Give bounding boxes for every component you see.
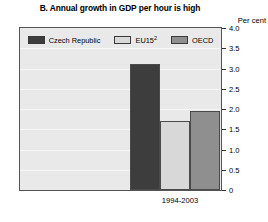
y-axis-tick (222, 170, 226, 171)
y-axis-tick (222, 48, 226, 49)
y-axis-tick-label: 4.0 (229, 24, 240, 33)
y-axis-tick-label: 1.0 (229, 145, 240, 154)
x-axis-label: 1994-2003 (130, 196, 230, 205)
bar-group (20, 28, 221, 190)
y-axis-tick-label: 1.5 (229, 125, 240, 134)
y-axis-tick (222, 89, 226, 90)
y-axis-tick-label: 3.0 (229, 64, 240, 73)
y-axis-tick (222, 190, 226, 191)
y-axis-tick (222, 28, 226, 29)
y-axis-unit-label: Per cent (238, 16, 266, 25)
y-axis-tick-label: 2.5 (229, 84, 240, 93)
y-axis-tick-label: 0 (229, 186, 233, 195)
chart-title: B. Annual growth in GDP per hour is high (0, 3, 240, 13)
chart-figure: B. Annual growth in GDP per hour is high… (0, 0, 268, 222)
y-axis-tick-label: 3.5 (229, 44, 240, 53)
y-axis-tick-label: 0.5 (229, 165, 240, 174)
y-axis: 4.03.53.02.52.01.51.00.50 (222, 27, 268, 191)
y-axis-tick (222, 69, 226, 70)
y-axis-tick (222, 150, 226, 151)
y-axis-tick (222, 129, 226, 130)
y-axis-tick (222, 109, 226, 110)
bar-eu15 (160, 121, 190, 190)
bar-czech-republic (130, 64, 160, 190)
y-axis-tick-label: 2.0 (229, 105, 240, 114)
bar-oecd (190, 111, 220, 190)
plot-area: Czech Republic EU152 OECD (19, 27, 222, 191)
